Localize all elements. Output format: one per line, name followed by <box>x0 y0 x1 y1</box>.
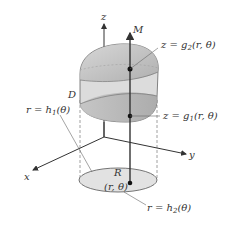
y-axis <box>104 137 186 154</box>
solid-d <box>80 44 158 122</box>
y-axis-label: y <box>188 149 195 160</box>
point-label: (r, θ) <box>104 181 128 192</box>
lower-surface-label: z = g1(r, θ) <box>162 110 218 123</box>
point-r-theta <box>128 181 133 186</box>
x-axis <box>33 137 104 170</box>
upper-surface-label: z = g2(r, θ) <box>160 39 216 52</box>
d-label: D <box>67 89 76 100</box>
m-label: M <box>132 24 144 35</box>
z-axis-label: z <box>100 11 107 22</box>
diagram-canvas: z M D x y R (r, θ) z = g2(r, θ) z = g1(r… <box>0 0 234 226</box>
outer-curve-label: r = h2(θ) <box>147 202 191 215</box>
x-axis-label: x <box>24 171 30 182</box>
inner-curve-label: r = h1(θ) <box>26 104 70 117</box>
r-region-label: R <box>113 167 122 178</box>
